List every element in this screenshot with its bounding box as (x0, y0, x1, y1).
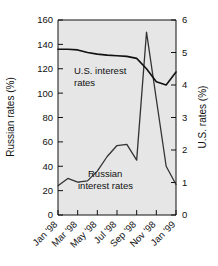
right-tick-label: 0 (182, 209, 187, 220)
right-tick-label: 3 (182, 112, 187, 123)
left-tick-label: 140 (37, 39, 53, 50)
right-tick-label: 6 (182, 14, 187, 25)
annotation-russian-interest-rates-line2: interest rates (78, 180, 133, 191)
left-tick-label: 160 (37, 14, 53, 25)
annotation-us-interest-rates-line2: rates (74, 77, 95, 88)
dual-axis-line-chart: 020406080100120140160 0123456 Jan '98Mar… (0, 0, 218, 266)
annotation-us-interest-rates-line1: U.S. interest (74, 65, 127, 76)
left-axis-tick-labels: 020406080100120140160 (37, 14, 53, 220)
left-tick-label: 120 (37, 63, 53, 74)
right-tick-label: 2 (182, 144, 187, 155)
chart-figure: 020406080100120140160 0123456 Jan '98Mar… (0, 0, 218, 266)
left-tick-label: 40 (42, 161, 53, 172)
annotation-russian-interest-rates-line1: Russian (88, 168, 122, 179)
left-tick-label: 60 (42, 136, 53, 147)
right-axis-title: U.S. rates (%) (197, 86, 208, 149)
right-tick-label: 1 (182, 177, 187, 188)
left-tick-label: 20 (42, 185, 53, 196)
left-tick-label: 80 (42, 112, 53, 123)
left-tick-label: 100 (37, 88, 53, 99)
right-tick-label: 4 (182, 79, 187, 90)
x-axis-tick-labels: Jan '98Mar '98May '98Jul '98Sep '98Nov '… (30, 219, 177, 250)
right-axis-tick-labels: 0123456 (182, 14, 187, 220)
left-axis-title: Russian rates (%) (5, 77, 16, 156)
right-tick-label: 5 (182, 47, 187, 58)
